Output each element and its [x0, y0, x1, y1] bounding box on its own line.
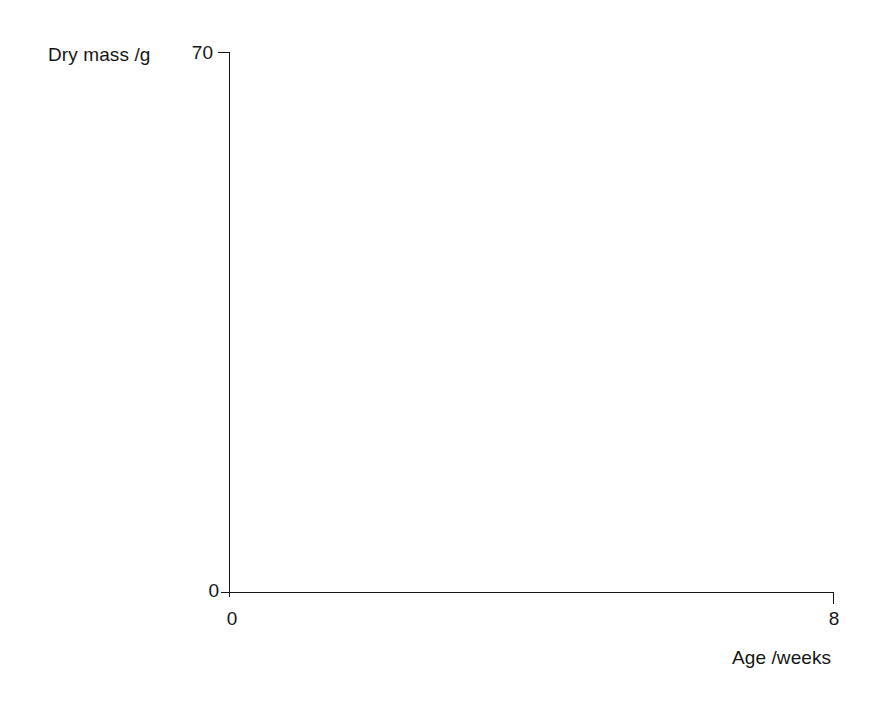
x-axis-title: Age /weeks: [732, 648, 831, 667]
plot-area: [230, 53, 834, 592]
y-axis-title: Dry mass /g: [48, 45, 150, 64]
y-axis-tick-label-max: 70: [189, 43, 213, 62]
x-axis-tick-label-min: 0: [224, 609, 240, 628]
y-axis-tick-label-min: 0: [203, 581, 219, 600]
chart-figure: Dry mass /g 70 0 0 8 Age /weeks: [0, 0, 884, 707]
x-axis-tick-label-max: 8: [826, 609, 842, 628]
